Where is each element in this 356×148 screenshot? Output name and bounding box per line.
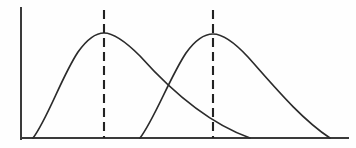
chart-figure (0, 0, 356, 148)
peak-markers-group (104, 10, 213, 138)
curve-2-path (140, 34, 330, 138)
curves-group (33, 33, 330, 138)
curve-1-path (33, 33, 250, 138)
chart-canvas (0, 0, 356, 148)
axes-group (21, 8, 348, 139)
